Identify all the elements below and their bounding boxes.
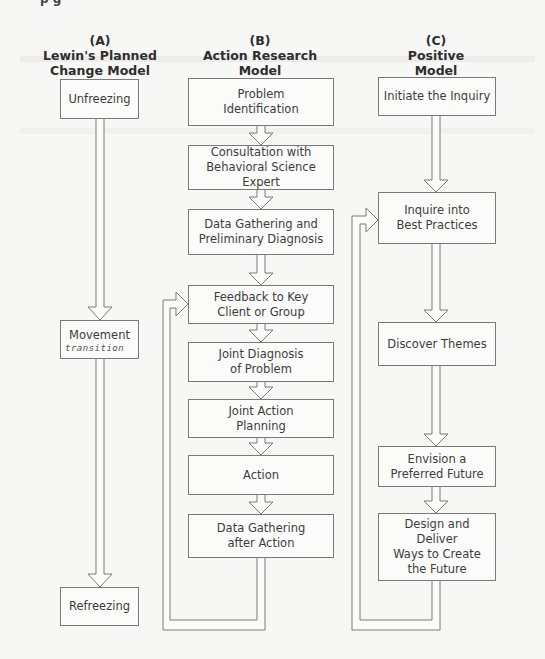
step-initiate-inquiry: Initiate the Inquiry <box>378 77 496 116</box>
step-envision-future: Envision a Preferred Future <box>378 446 496 487</box>
step-action: Action <box>188 455 334 495</box>
handwritten-annotation: transition <box>65 343 124 353</box>
step-unfreezing: Unfreezing <box>60 79 139 119</box>
step-refreezing: Refreezing <box>60 587 139 626</box>
step-movement-label: Movement <box>69 328 130 343</box>
step-discover-themes: Discover Themes <box>378 322 496 366</box>
step-consultation: Consultation with Behavioral Science Exp… <box>188 145 334 190</box>
step-joint-diagnosis: Joint Diagnosis of Problem <box>188 342 334 382</box>
step-data-gathering-diagnosis: Data Gathering and Preliminary Diagnosis <box>188 209 334 255</box>
step-inquire-best-practices: Inquire into Best Practices <box>378 192 496 244</box>
step-joint-action-planning: Joint Action Planning <box>188 399 334 438</box>
step-movement: Movement <box>60 320 139 359</box>
step-feedback: Feedback to Key Client or Group <box>188 285 334 324</box>
step-problem-identification: Problem Identification <box>188 78 334 126</box>
step-data-gathering-after-action: Data Gathering after Action <box>188 514 334 558</box>
step-design-deliver: Design and Deliver Ways to Create the Fu… <box>378 513 496 581</box>
